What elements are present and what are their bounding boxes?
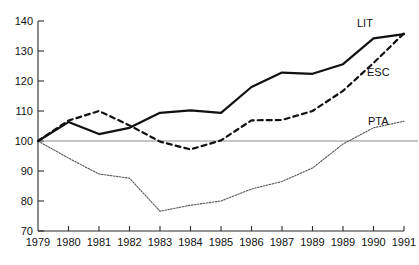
x-tick-label: 1991 bbox=[392, 236, 416, 248]
x-tick-label: 1990 bbox=[361, 236, 385, 248]
y-axis-ticks: 140130120110100908070 bbox=[15, 15, 44, 237]
x-tick-label: 1979 bbox=[26, 236, 50, 248]
x-tick-label: 1989 bbox=[300, 236, 324, 248]
series-line-pta bbox=[38, 121, 404, 211]
y-tick-label: 90 bbox=[21, 165, 33, 177]
y-tick-label: 110 bbox=[15, 105, 33, 117]
series-label-lit: LIT bbox=[357, 17, 373, 29]
x-tick-label: 1982 bbox=[117, 236, 141, 248]
x-tick-label: 1986 bbox=[239, 236, 263, 248]
series-line-lit bbox=[38, 34, 404, 141]
y-tick-label: 130 bbox=[15, 45, 33, 57]
x-tick-label: 1985 bbox=[209, 236, 233, 248]
series-label-pta: PTA bbox=[368, 115, 389, 127]
chart-canvas: 140130120110100908070 197919801981198219… bbox=[0, 0, 419, 265]
y-tick-label: 100 bbox=[15, 135, 33, 147]
series-label-esc: ESC bbox=[367, 66, 390, 78]
y-tick-label: 120 bbox=[15, 75, 33, 87]
y-tick-label: 140 bbox=[15, 15, 33, 27]
x-tick-label: 1984 bbox=[178, 236, 202, 248]
y-tick-label: 80 bbox=[21, 195, 33, 207]
x-tick-label: 1981 bbox=[87, 236, 111, 248]
x-axis-ticks: 1979198019811982198319841985198619871989… bbox=[26, 226, 416, 248]
x-tick-label: 1987 bbox=[270, 236, 294, 248]
line-chart: 140130120110100908070 197919801981198219… bbox=[0, 0, 419, 265]
x-tick-label: 1983 bbox=[148, 236, 172, 248]
x-tick-label: 1980 bbox=[56, 236, 80, 248]
x-tick-label: 1989 bbox=[331, 236, 355, 248]
